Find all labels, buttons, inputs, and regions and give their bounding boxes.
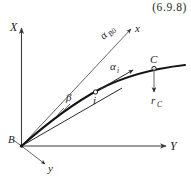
- axis-y-local-label: y: [47, 162, 53, 174]
- vector-rC-symbol: r: [151, 94, 156, 106]
- chord-B-to-i: [22, 88, 123, 146]
- point-C-label: C: [150, 53, 158, 65]
- angle-alpha-i-subscript: i: [117, 66, 119, 75]
- point-B-label: B: [8, 133, 15, 145]
- beam-kinematics-diagram: X Y y x α B0 β B i: [0, 0, 191, 176]
- vector-rC-label-group: r C: [151, 94, 163, 109]
- figure-root: (6.9.8) X Y y x α: [0, 0, 191, 176]
- axis-X-label: X: [9, 20, 18, 34]
- angle-alpha-B0-label-group: α B0: [97, 22, 119, 44]
- point-i-label: i: [93, 94, 96, 106]
- vector-rC-subscript: C: [157, 100, 163, 109]
- axis-Y-label: Y: [170, 139, 178, 153]
- point-B-marker: [20, 144, 24, 148]
- axis-y-local-line: [22, 146, 46, 164]
- angle-beta-label: β: [65, 91, 72, 103]
- angle-alpha-i-label-group: α i: [110, 60, 119, 75]
- axis-x-local-line: [22, 29, 132, 146]
- axis-x-local-label: x: [134, 22, 140, 34]
- angle-alpha-i-symbol: α: [110, 60, 116, 72]
